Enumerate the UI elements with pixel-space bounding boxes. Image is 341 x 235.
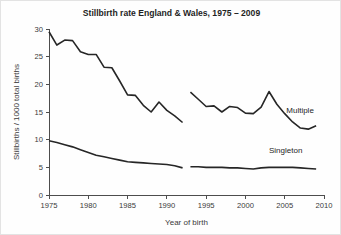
x-axis-label: Year of birth (165, 218, 208, 227)
y-tick-label: 25 (35, 52, 43, 61)
stillbirth-rate-line-chart: Stillbirth rate England & Wales, 1975 – … (1, 1, 341, 235)
series-label-multiple: Multiple (286, 106, 314, 115)
y-axis: 051015202530 Stillbirths / 1000 total bi… (12, 25, 49, 200)
y-axis-label: Stillbirths / 1000 total births (12, 64, 21, 160)
series-line-singleton (190, 167, 316, 169)
x-tick-label: 2010 (316, 201, 333, 210)
series-line-multiple (49, 32, 183, 123)
x-tick-label: 1995 (198, 201, 215, 210)
y-axis-ticks: 051015202530 (35, 25, 49, 200)
x-tick-label: 2005 (276, 201, 293, 210)
x-tick-label: 1985 (119, 201, 136, 210)
x-tick-label: 1975 (41, 201, 58, 210)
series-labels-group: MultipleSingleton (269, 106, 314, 154)
y-tick-label: 20 (35, 80, 43, 89)
chart-figure: Stillbirth rate England & Wales, 1975 – … (0, 0, 341, 235)
y-tick-label: 10 (35, 135, 43, 144)
x-tick-label: 1980 (80, 201, 97, 210)
y-tick-label: 0 (39, 191, 43, 200)
y-tick-label: 30 (35, 25, 43, 34)
x-axis-ticks: 19751980198519901995200020052010 (41, 195, 333, 210)
y-tick-label: 5 (39, 163, 43, 172)
page-title: Stillbirth rate England & Wales, 1975 – … (83, 8, 261, 18)
x-axis: 19751980198519901995200020052010 Year of… (41, 195, 333, 227)
y-tick-label: 15 (35, 108, 43, 117)
x-tick-label: 1990 (158, 201, 175, 210)
x-tick-label: 2000 (237, 201, 254, 210)
series-label-singleton: Singleton (269, 146, 302, 155)
series-line-singleton (49, 141, 183, 168)
